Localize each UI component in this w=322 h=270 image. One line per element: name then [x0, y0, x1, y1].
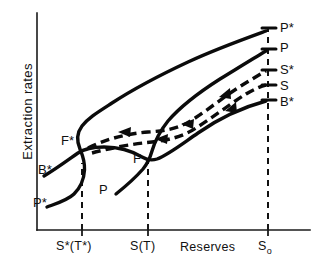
- series-label-b-star-left: B*: [38, 163, 52, 176]
- series-label-p-left: P: [99, 183, 108, 196]
- series-label-s-right: S: [280, 79, 289, 92]
- series-label-s-star-right: S*: [280, 63, 294, 76]
- chart-canvas: [0, 0, 322, 270]
- node-label-f-star: F*: [61, 134, 74, 147]
- series-label-p-right: P: [280, 41, 289, 54]
- y-axis-label: Extraction rates: [20, 47, 35, 177]
- curve-p-star: [47, 31, 266, 207]
- x-tick-label-s-zero-base: S: [258, 239, 267, 253]
- arrowhead-s-star-left-3: [181, 119, 194, 129]
- x-tick-label-s-t: S(T): [130, 240, 156, 253]
- x-tick-label-s-star: S*(T*): [56, 240, 92, 253]
- x-tick-label-s-zero-subscript: o: [267, 246, 272, 256]
- curve-s: [92, 85, 266, 153]
- x-tick-label-s-zero: So: [258, 240, 272, 256]
- arrowhead-s-star-right-1: [219, 88, 231, 99]
- series-label-p-star-left: P*: [33, 196, 47, 209]
- series-label-b-star-right: B*: [280, 95, 294, 108]
- node-label-f: F: [133, 152, 141, 165]
- series-label-p-star-right: P*: [280, 21, 294, 34]
- x-axis-label: Reserves: [180, 241, 235, 254]
- chart-figure: Extraction rates F* F B* P* P P* P S* S …: [0, 0, 322, 270]
